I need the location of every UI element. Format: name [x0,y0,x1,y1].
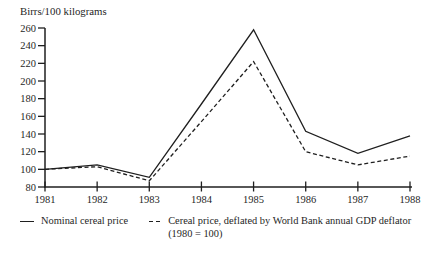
svg-text:1983: 1983 [139,194,160,205]
series-solid [45,30,410,178]
legend-item-deflated-price: Cereal price, deflated by World Bank ann… [149,215,411,240]
legend-item-nominal-price: Nominal cereal price [20,215,128,228]
svg-text:1986: 1986 [295,194,316,205]
chart-legend: Nominal cereal price Cereal price, defla… [20,215,411,240]
line-chart-plot-area: 8010012014016018020022024026019811982198… [0,0,439,212]
solid-line-swatch [20,221,34,223]
svg-text:220: 220 [20,58,36,69]
svg-text:200: 200 [20,76,36,87]
series-dashed [45,62,410,181]
svg-text:260: 260 [20,23,36,34]
svg-text:180: 180 [20,93,36,104]
legend-label-nominal: Nominal cereal price [41,215,128,228]
dashed-line-swatch [149,221,161,223]
svg-text:240: 240 [20,40,36,51]
svg-text:160: 160 [20,111,36,122]
cereal-price-figure: Birrs/100 kilograms 80100120140160180200… [0,0,439,254]
svg-text:140: 140 [20,129,36,140]
legend-label-deflated: Cereal price, deflated by World Bank ann… [168,215,411,228]
svg-text:1985: 1985 [243,194,264,205]
svg-text:1988: 1988 [400,194,421,205]
svg-text:120: 120 [20,146,36,157]
svg-text:1987: 1987 [347,194,368,205]
svg-text:1981: 1981 [35,194,56,205]
legend-label-deflated-basis: (1980 = 100) [168,228,411,241]
svg-text:80: 80 [26,182,37,193]
svg-text:1982: 1982 [87,194,108,205]
svg-text:100: 100 [20,164,36,175]
svg-text:1984: 1984 [191,194,213,205]
